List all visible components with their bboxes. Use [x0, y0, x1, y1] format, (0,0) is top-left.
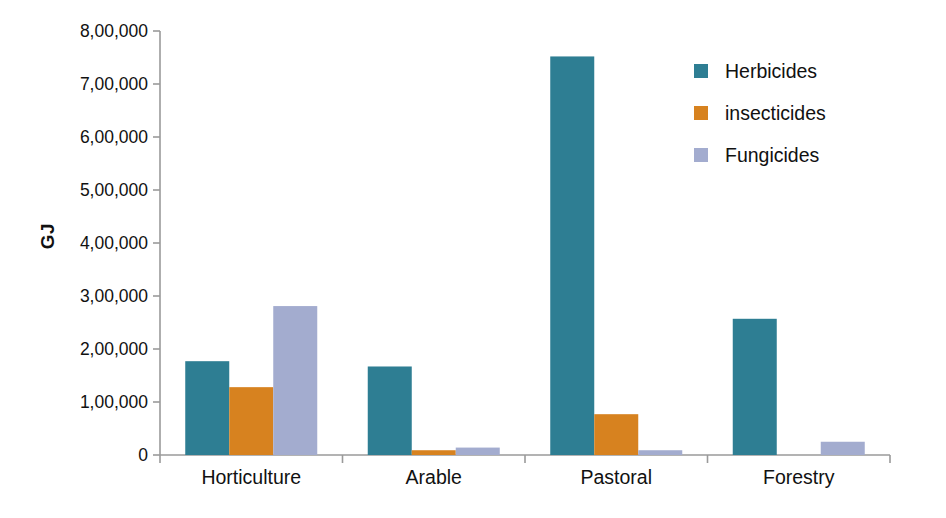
legend-item[interactable]: Herbicides: [694, 50, 826, 92]
bar: [229, 387, 273, 455]
legend-swatch-icon: [694, 106, 708, 120]
legend-item[interactable]: Fungicides: [694, 134, 826, 176]
bar-chart: GJ 01,00,0002,00,0003,00,0004,00,0005,00…: [0, 0, 946, 518]
legend-label: Fungicides: [725, 144, 819, 167]
bar: [550, 56, 594, 455]
legend-swatch-icon: [694, 64, 708, 78]
bar: [273, 306, 317, 455]
bar: [368, 366, 412, 455]
bar: [821, 442, 865, 455]
x-axis-category-label: Arable: [406, 466, 462, 489]
bar: [412, 450, 456, 455]
bar: [594, 414, 638, 455]
legend-item[interactable]: insecticides: [694, 92, 826, 134]
bar: [185, 361, 229, 455]
legend-label: insecticides: [725, 102, 826, 125]
legend: HerbicidesinsecticidesFungicides: [694, 50, 826, 176]
legend-swatch-icon: [694, 148, 708, 162]
bar: [733, 319, 777, 455]
x-axis-category-label: Pastoral: [580, 466, 652, 489]
x-axis-category-label: Forestry: [763, 466, 835, 489]
bar: [638, 450, 682, 455]
x-axis-category-label: Horticulture: [201, 466, 301, 489]
legend-label: Herbicides: [725, 60, 817, 83]
bar: [456, 448, 500, 455]
